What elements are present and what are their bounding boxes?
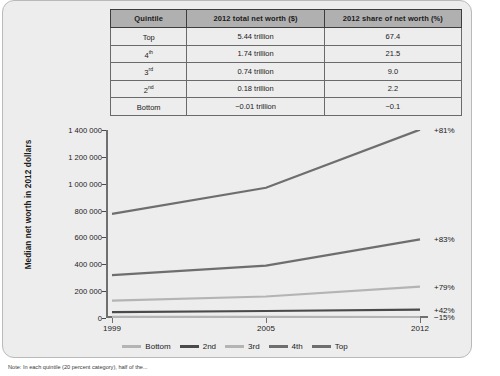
cell-quintile: Top (111, 28, 187, 46)
quintile-label: Bottom (137, 103, 161, 112)
y-tick-mark (102, 318, 106, 319)
legend-swatch-icon (180, 345, 199, 348)
cell-total-net-worth: 1.74 trillion (187, 45, 324, 63)
cell-quintile: 4th (111, 45, 187, 63)
legend-swatch-icon (122, 345, 141, 348)
y-tick-mark (102, 237, 106, 238)
series-lines (106, 130, 428, 318)
legend-swatch-icon (269, 345, 288, 348)
table-header-row: Quintile 2012 total net worth ($) 2012 s… (111, 10, 462, 28)
x-tick-label: 2012 (411, 324, 429, 333)
plot-area (106, 130, 428, 318)
legend-item-4th[interactable]: 4th (269, 342, 303, 351)
x-tick-label: 1999 (103, 324, 121, 333)
y-tick-label: 800 000 (38, 206, 102, 215)
table-header-quintile: Quintile (111, 10, 187, 28)
legend-item-bottom[interactable]: Bottom (122, 342, 170, 351)
y-tick-label: 1 000 000 (38, 179, 102, 188)
y-tick-mark (102, 211, 106, 212)
y-tick-label: 200 000 (38, 287, 102, 296)
y-axis-title: Median net worth in 2012 dollars (24, 125, 33, 285)
y-tick-mark (102, 130, 106, 131)
cell-share-net-worth: 67.4 (324, 28, 461, 46)
legend-label: 3rd (248, 342, 260, 351)
chart-legend: Bottom2nd3rd4thTop (0, 342, 470, 351)
y-axis-ticklabels: 0200 000400 000600 000800 0001 000 0001 … (38, 128, 102, 318)
cell-quintile: Bottom (111, 98, 187, 116)
cell-total-net-worth: 0.18 trillion (187, 80, 324, 98)
line-chart: Median net worth in 2012 dollars 0200 00… (0, 128, 470, 358)
net-worth-table-container: Quintile 2012 total net worth ($) 2012 s… (110, 9, 462, 116)
table-body: Top 5.44 trillion 67.4 4th 1.74 trillion… (111, 28, 462, 116)
cell-quintile: 2nd (111, 80, 187, 98)
legend-label: Top (335, 342, 348, 351)
quintile-ordinal: rd (148, 66, 153, 72)
quintile-ordinal: nd (148, 84, 154, 90)
legend-item-2nd[interactable]: 2nd (180, 342, 216, 351)
cell-total-net-worth: −0.01 trillion (187, 98, 324, 116)
table-header-share-net-worth: 2012 share of net worth (%) (324, 10, 461, 28)
line-series-2nd (112, 310, 420, 312)
change-annotation-3rd: +79% (434, 282, 455, 291)
legend-swatch-icon (312, 345, 331, 348)
table-row: 4th 1.74 trillion 21.5 (111, 45, 462, 63)
table-row: 3rd 0.74 trillion 9.0 (111, 63, 462, 81)
legend-label: Bottom (145, 342, 170, 351)
legend-label: 2nd (203, 342, 216, 351)
legend-item-top[interactable]: Top (312, 342, 348, 351)
y-tick-label: 1 200 000 (38, 152, 102, 161)
cell-total-net-worth: 5.44 trillion (187, 28, 324, 46)
table-row: 2nd 0.18 trillion 2.2 (111, 80, 462, 98)
y-tick-label: 1 400 000 (38, 126, 102, 135)
change-annotation-4th: +83% (434, 235, 455, 244)
y-tick-label: 400 000 (38, 260, 102, 269)
x-tick-mark (112, 318, 113, 323)
figure-note: Note: In each quintile (20 percent categ… (8, 364, 500, 370)
line-series-top (112, 130, 420, 214)
cell-share-net-worth: −0.1 (324, 98, 461, 116)
cell-share-net-worth: 2.2 (324, 80, 461, 98)
y-tick-label: 0 (38, 314, 102, 323)
x-tick-mark (420, 318, 421, 323)
y-tick-label: 600 000 (38, 233, 102, 242)
legend-item-3rd[interactable]: 3rd (225, 342, 260, 351)
legend-label: 4th (292, 342, 303, 351)
line-series-3rd (112, 287, 420, 301)
y-tick-mark (102, 157, 106, 158)
y-tick-mark (102, 264, 106, 265)
cell-share-net-worth: 21.5 (324, 45, 461, 63)
table-header-total-net-worth: 2012 total net worth ($) (187, 10, 324, 28)
table-row: Top 5.44 trillion 67.4 (111, 28, 462, 46)
y-tick-mark (102, 291, 106, 292)
y-tick-mark (102, 184, 106, 185)
table-row: Bottom −0.01 trillion −0.1 (111, 98, 462, 116)
cell-total-net-worth: 0.74 trillion (187, 63, 324, 81)
change-annotation-top: +81% (434, 125, 455, 134)
x-tick-label: 2005 (257, 324, 275, 333)
cell-quintile: 3rd (111, 63, 187, 81)
quintile-label: Top (143, 33, 155, 42)
change-annotation-2nd: +42% (434, 305, 455, 314)
x-tick-mark (266, 318, 267, 323)
quintile-ordinal: th (149, 49, 153, 55)
legend-swatch-icon (225, 345, 244, 348)
net-worth-table: Quintile 2012 total net worth ($) 2012 s… (110, 9, 462, 116)
cell-share-net-worth: 9.0 (324, 63, 461, 81)
line-series-4th (112, 239, 420, 275)
